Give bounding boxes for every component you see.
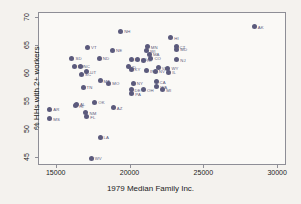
data-point: [141, 87, 146, 92]
data-point: [69, 56, 74, 61]
y-axis-tick-label: 45: [23, 149, 30, 165]
data-point: [131, 81, 136, 86]
x-axis-tick: [277, 165, 278, 168]
data-point-label: RI: [147, 59, 152, 63]
data-point-label: MD: [180, 48, 187, 52]
data-point-label: MO: [112, 82, 119, 86]
data-point-label: TN: [87, 86, 93, 90]
y-axis-tick-label: 50: [23, 121, 30, 137]
data-point-label: HI: [174, 37, 179, 41]
data-point: [154, 84, 159, 89]
data-point: [72, 64, 77, 69]
data-point: [97, 56, 102, 61]
data-point-label: ND: [103, 57, 109, 61]
data-point: [174, 57, 179, 62]
data-point-label: OK: [98, 101, 104, 105]
data-point: [85, 45, 90, 50]
x-axis-tick-label: 25000: [194, 169, 213, 176]
data-point: [144, 68, 149, 73]
y-axis-tick-label: 65: [23, 37, 30, 53]
data-point-label: AR: [53, 108, 59, 112]
data-point: [73, 103, 78, 108]
data-point: [129, 67, 134, 72]
data-point: [98, 135, 103, 140]
data-point: [141, 58, 146, 63]
data-point: [79, 72, 84, 77]
x-axis-title: 1979 Median Family Inc.: [0, 184, 301, 193]
data-point-label: NE: [116, 49, 122, 53]
x-axis-tick: [203, 165, 204, 168]
data-point: [252, 24, 257, 29]
x-axis-tick-label: 15000: [46, 169, 65, 176]
data-point: [47, 107, 52, 112]
plot-area: AKNHHIVTMNCTMDWINEMASDNDCONJIAKSRIMENCID…: [38, 12, 286, 165]
data-point: [78, 64, 83, 69]
y-axis-tick-label: 70: [23, 9, 30, 25]
data-point: [81, 85, 86, 90]
data-point-label: SC: [85, 73, 91, 77]
data-point-label: NY: [137, 82, 143, 86]
x-axis-tick-label: 20000: [120, 169, 139, 176]
data-point-label: SD: [75, 57, 81, 61]
data-point-label: IL: [172, 71, 176, 75]
data-point: [89, 156, 94, 161]
data-point: [84, 114, 89, 119]
data-point: [135, 57, 140, 62]
data-point-label: MI: [166, 89, 171, 93]
data-point-label: VA: [162, 67, 168, 71]
data-point: [160, 87, 165, 92]
scatter-plot-figure: AKNHHIVTMNCTMDWINEMASDNDCONJIAKSRIMENCID…: [0, 0, 301, 204]
y-axis-title: % HHs with 2+ workers: [32, 13, 41, 163]
data-point: [47, 116, 52, 121]
data-point: [110, 48, 115, 53]
data-point: [92, 100, 97, 105]
data-point-label: AZ: [117, 107, 123, 111]
data-point-label: KY: [135, 68, 141, 72]
data-point: [111, 105, 116, 110]
data-point-label: VT: [91, 46, 97, 50]
data-point-label: NJ: [180, 59, 185, 63]
data-point-label: MS: [53, 118, 60, 122]
data-point-label: HI: [79, 105, 84, 109]
data-point-label: AK: [258, 26, 264, 30]
x-axis-tick-label: 30000: [267, 169, 286, 176]
data-point: [129, 57, 134, 62]
data-point: [174, 47, 179, 52]
data-point-label: OH: [147, 89, 154, 93]
data-point: [98, 78, 103, 83]
y-axis-tick-label: 60: [23, 65, 30, 81]
data-point-label: FL: [90, 116, 95, 120]
data-point-label: WV: [95, 157, 102, 161]
data-point: [168, 35, 173, 40]
x-axis-tick: [130, 165, 131, 168]
data-point: [106, 81, 111, 86]
x-axis-tick: [56, 165, 57, 168]
data-point-label: CO: [154, 57, 161, 61]
data-point: [129, 91, 134, 96]
data-point-label: NH: [124, 30, 130, 34]
data-point: [156, 65, 161, 70]
data-point-label: LA: [104, 136, 109, 140]
y-axis-tick-label: 55: [23, 93, 30, 109]
data-point: [118, 29, 123, 34]
data-point-label: PA: [135, 93, 141, 97]
